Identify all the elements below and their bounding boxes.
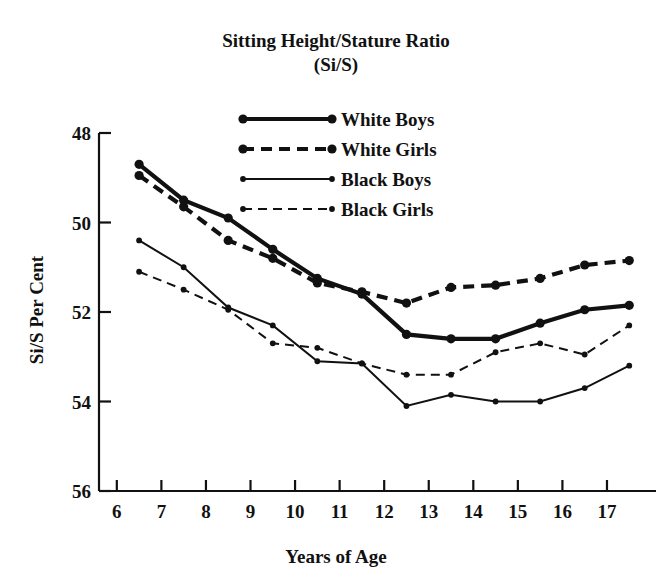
data-point: [136, 269, 142, 275]
data-point: [224, 236, 233, 245]
x-tick-label: 11: [331, 501, 349, 522]
data-point: [181, 287, 187, 293]
x-tick-label: 14: [464, 501, 484, 522]
data-point: [357, 287, 366, 296]
data-series-layer: [135, 160, 634, 409]
data-point: [136, 238, 142, 244]
legend-marker-start: [240, 176, 246, 182]
data-point: [225, 307, 231, 313]
data-point: [493, 399, 499, 405]
legend-item-white-boys: White Boys: [238, 109, 434, 130]
legend-marker-end: [329, 176, 335, 182]
data-point: [537, 340, 543, 346]
x-tick-label: 15: [508, 501, 527, 522]
legend-label: White Girls: [341, 139, 437, 160]
data-point: [270, 323, 276, 329]
series-black-boys: [136, 238, 632, 409]
y-tick-label: 56: [72, 481, 91, 502]
chart-subtitle: (Si/S): [314, 54, 358, 76]
y-axis-label: Si/S Per Cent: [26, 255, 47, 364]
x-tick-label: 12: [375, 501, 394, 522]
data-point: [270, 340, 276, 346]
series-line: [139, 176, 629, 304]
data-point: [224, 213, 233, 222]
data-point: [493, 349, 499, 355]
data-point: [580, 305, 589, 314]
data-point: [626, 363, 632, 369]
x-tick-label: 7: [157, 501, 167, 522]
legend-marker-start: [238, 144, 247, 153]
data-point: [626, 323, 632, 329]
data-point: [268, 254, 277, 263]
data-point: [402, 298, 411, 307]
series-line: [139, 240, 629, 406]
series-black-girls: [136, 269, 632, 378]
data-point: [135, 160, 144, 169]
legend-marker-end: [329, 206, 335, 212]
data-point: [313, 278, 322, 287]
y-tick-label: 50: [72, 213, 91, 234]
x-axis-ticks: 67891011121314151617: [112, 480, 617, 522]
legend-item-black-girls: Black Girls: [240, 199, 433, 220]
x-tick-label: 9: [246, 501, 256, 522]
data-point: [314, 358, 320, 364]
series-white-girls: [135, 171, 634, 308]
data-point: [314, 345, 320, 351]
chart-title: Sitting Height/Stature Ratio: [222, 30, 450, 51]
legend-item-black-boys: Black Boys: [240, 169, 431, 190]
data-point: [582, 352, 588, 358]
legend-label: Black Girls: [341, 199, 433, 220]
x-axis-label: Years of Age: [285, 546, 386, 567]
x-tick-label: 6: [112, 501, 122, 522]
series-line: [139, 164, 629, 339]
data-point: [491, 334, 500, 343]
chart-legend: White BoysWhite GirlsBlack BoysBlack Gir…: [238, 109, 436, 220]
data-point: [402, 330, 411, 339]
legend-marker-end: [327, 114, 336, 123]
legend-item-white-girls: White Girls: [238, 139, 436, 160]
data-point: [181, 264, 187, 270]
data-point: [582, 385, 588, 391]
y-tick-label: 48: [72, 123, 91, 144]
x-tick-label: 10: [286, 501, 305, 522]
data-point: [448, 372, 454, 378]
chart-svg: Sitting Height/Stature Ratio (Si/S) Si/S…: [0, 0, 672, 581]
data-point: [404, 403, 410, 409]
data-point: [359, 361, 365, 367]
data-point: [404, 372, 410, 378]
data-point: [448, 392, 454, 398]
data-point: [536, 274, 545, 283]
data-point: [179, 202, 188, 211]
data-point: [446, 283, 455, 292]
data-point: [446, 334, 455, 343]
y-tick-label: 54: [72, 392, 92, 413]
legend-label: Black Boys: [341, 169, 431, 190]
x-tick-label: 17: [597, 501, 617, 522]
data-point: [491, 281, 500, 290]
data-point: [268, 245, 277, 254]
data-point: [625, 301, 634, 310]
data-point: [135, 171, 144, 180]
data-point: [625, 256, 634, 265]
legend-marker-start: [238, 114, 247, 123]
data-point: [537, 399, 543, 405]
x-tick-label: 13: [419, 501, 438, 522]
x-tick-label: 16: [553, 501, 572, 522]
x-tick-label: 8: [201, 501, 211, 522]
y-axis-ticks: 5654525048: [72, 123, 111, 502]
chart-figure: Sitting Height/Stature Ratio (Si/S) Si/S…: [0, 0, 672, 581]
legend-label: White Boys: [341, 109, 434, 130]
series-line: [139, 272, 629, 375]
data-point: [536, 319, 545, 328]
y-tick-label: 52: [72, 302, 91, 323]
legend-marker-end: [327, 144, 336, 153]
legend-marker-start: [240, 206, 246, 212]
data-point: [580, 260, 589, 269]
